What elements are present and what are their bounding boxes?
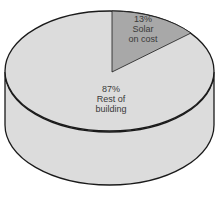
rest-pct: 87% [86, 84, 136, 94]
slice-label-solar: 13% Solar on cost [118, 14, 168, 44]
solar-line2: on cost [118, 34, 168, 44]
solar-line1: Solar [118, 24, 168, 34]
slice-label-rest: 87% Rest of building [86, 84, 136, 114]
solar-pct: 13% [118, 14, 168, 24]
rest-line1: Rest of [86, 94, 136, 104]
rest-line2: building [86, 104, 136, 114]
